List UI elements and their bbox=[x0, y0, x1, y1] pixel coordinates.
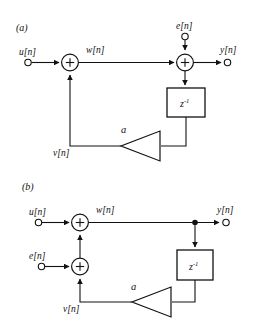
panel-a-intermediate-label: w[n] bbox=[86, 45, 105, 55]
panel-b-feedback-label: v[n] bbox=[63, 304, 80, 314]
panel-a-gain-triangle bbox=[121, 131, 160, 161]
panel-b-gain-triangle bbox=[132, 287, 171, 317]
panel-a: (a) u[n] w[n] e[n] y[n] bbox=[16, 21, 237, 161]
panel-a-label: (a) bbox=[16, 22, 28, 34]
panel-b-intermediate-label: w[n] bbox=[96, 205, 115, 215]
panel-a-noise-label: e[n] bbox=[176, 21, 193, 31]
panel-a-noise-terminal bbox=[182, 33, 188, 39]
panel-b-wire-delay-to-gain bbox=[172, 280, 195, 302]
block-diagram-svg: (a) u[n] w[n] e[n] y[n] bbox=[0, 0, 262, 330]
panel-b-output-label: y[n] bbox=[216, 205, 234, 215]
panel-a-wire-gain-to-adder1 bbox=[70, 75, 121, 146]
panel-b-wire-gain-to-adder2 bbox=[80, 279, 132, 302]
panel-a-gain-label: a bbox=[121, 124, 126, 135]
panel-a-input-terminal bbox=[25, 59, 31, 65]
panel-a-output-label: y[n] bbox=[219, 45, 237, 55]
panel-b-tap-junction bbox=[192, 220, 198, 226]
panel-b-noise-label: e[n] bbox=[29, 251, 46, 261]
panel-b: (b) u[n] e[n] w[n] y[ bbox=[22, 181, 234, 317]
panel-a-wire-delay-to-gain bbox=[161, 117, 186, 146]
panel-b-gain-label: a bbox=[131, 281, 136, 292]
panel-b-label: (b) bbox=[22, 181, 34, 193]
figure-canvas: (a) u[n] w[n] e[n] y[n] bbox=[0, 0, 262, 330]
panel-b-noise-terminal bbox=[38, 263, 44, 269]
panel-b-input-terminal bbox=[35, 219, 41, 225]
panel-a-output-terminal bbox=[224, 59, 230, 65]
panel-b-input-label: u[n] bbox=[29, 207, 46, 217]
panel-b-output-terminal bbox=[223, 219, 229, 225]
panel-a-input-label: u[n] bbox=[19, 47, 36, 57]
panel-a-feedback-label: v[n] bbox=[53, 148, 70, 158]
